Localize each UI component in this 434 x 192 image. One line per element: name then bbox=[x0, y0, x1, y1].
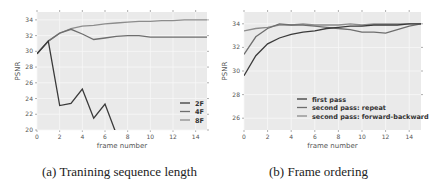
x-tick-label: 12 bbox=[382, 133, 390, 140]
x-tick-label: 0 bbox=[242, 133, 246, 140]
chart-b-svg: 024681012142628303234frame numberPSNRfir… bbox=[217, 0, 434, 160]
y-tick-label: 24 bbox=[25, 95, 33, 102]
y-tick-label: 32 bbox=[232, 43, 240, 50]
x-tick-label: 4 bbox=[289, 133, 293, 140]
x-tick-label: 14 bbox=[192, 133, 200, 140]
x-tick-label: 14 bbox=[405, 133, 413, 140]
x-tick-label: 8 bbox=[126, 133, 130, 140]
x-tick-label: 8 bbox=[336, 133, 340, 140]
legend-label: 2F bbox=[195, 100, 204, 108]
y-tick-label: 34 bbox=[232, 20, 240, 27]
x-tick-label: 10 bbox=[358, 133, 366, 140]
x-axis-label: frame number bbox=[97, 142, 147, 150]
x-tick-label: 12 bbox=[169, 133, 177, 140]
y-tick-label: 32 bbox=[25, 32, 33, 39]
legend-label: second pass: forward-backward bbox=[312, 113, 429, 121]
x-tick-label: 2 bbox=[58, 133, 62, 140]
chart-a-caption: (a) Tranining sequence length bbox=[42, 164, 197, 180]
y-tick-label: 28 bbox=[232, 91, 240, 98]
x-tick-label: 10 bbox=[147, 133, 155, 140]
x-tick-label: 6 bbox=[103, 133, 107, 140]
legend-label: 8F bbox=[195, 117, 204, 125]
chart-panel-a: 024681012142022242628303234frame numberP… bbox=[0, 0, 217, 192]
y-axis-label: PSNR bbox=[14, 61, 22, 80]
y-tick-label: 22 bbox=[25, 110, 33, 117]
y-tick-label: 30 bbox=[232, 67, 240, 74]
x-tick-label: 0 bbox=[35, 133, 39, 140]
x-tick-label: 2 bbox=[266, 133, 270, 140]
legend-label: 4F bbox=[195, 108, 204, 116]
x-axis-label: frame number bbox=[307, 142, 357, 150]
y-axis-label: PSNR bbox=[221, 61, 229, 80]
chart-b-caption: (b) Frame ordering bbox=[269, 164, 368, 180]
x-tick-label: 4 bbox=[80, 133, 84, 140]
chart-panel-b: 024681012142628303234frame numberPSNRfir… bbox=[217, 0, 434, 192]
y-tick-label: 34 bbox=[25, 16, 33, 23]
y-tick-label: 26 bbox=[232, 114, 240, 121]
y-tick-label: 30 bbox=[25, 47, 33, 54]
y-tick-label: 26 bbox=[25, 79, 33, 86]
y-tick-label: 20 bbox=[25, 126, 33, 133]
chart-a-svg: 024681012142022242628303234frame numberP… bbox=[0, 0, 217, 160]
x-tick-label: 6 bbox=[313, 133, 317, 140]
plot-area bbox=[37, 12, 207, 130]
legend-label: first pass bbox=[312, 96, 346, 104]
legend-label: second pass: repeat bbox=[312, 104, 386, 112]
y-tick-label: 28 bbox=[25, 63, 33, 70]
